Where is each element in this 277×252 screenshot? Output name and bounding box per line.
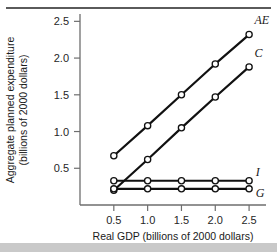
- x-tick-label: 1.5: [174, 214, 189, 226]
- line-chart-plot: 0.51.01.52.02.5 0.51.01.52.02.5 AECIG Re…: [0, 0, 277, 252]
- data-point-marker-I: [178, 178, 184, 184]
- y-tick-label: 1.0: [54, 126, 69, 138]
- series-label-C: C: [255, 46, 264, 60]
- data-point-marker-I: [111, 178, 117, 184]
- data-point-marker-G: [178, 186, 184, 192]
- y-tick-label: 2.5: [54, 15, 69, 27]
- data-point-marker-AE: [145, 123, 151, 129]
- data-point-marker-G: [111, 186, 117, 192]
- data-point-marker-AE: [212, 61, 218, 67]
- axis-spines: [80, 14, 266, 205]
- data-point-marker-C: [212, 94, 218, 100]
- y-axis-title-line-1: Aggregate planned expenditure: [4, 37, 16, 184]
- x-tick-label: 2.5: [241, 214, 256, 226]
- series-label-G: G: [256, 186, 265, 200]
- data-point-marker-C: [246, 64, 252, 70]
- data-point-marker-G: [246, 186, 252, 192]
- x-tick-label: 1.0: [140, 214, 155, 226]
- chart-figure: 0.51.01.52.02.5 0.51.01.52.02.5 AECIG Re…: [0, 0, 277, 252]
- data-point-marker-I: [145, 178, 151, 184]
- x-axis-ticks: [114, 205, 249, 211]
- data-point-marker-AE: [178, 92, 184, 98]
- y-tick-label: 0.5: [54, 162, 69, 174]
- data-point-marker-C: [145, 156, 151, 162]
- x-tick-label: 0.5: [106, 214, 121, 226]
- data-series-group: [111, 31, 252, 193]
- y-axis-title-line-2: (billions of 2000 dollars): [17, 55, 29, 166]
- y-tick-label: 2.0: [54, 52, 69, 64]
- series-label-I: I: [255, 165, 261, 179]
- x-axis-title: Real GDP (billions of 2000 dollars): [93, 230, 254, 242]
- data-point-marker-C: [178, 125, 184, 131]
- data-point-marker-AE: [246, 31, 252, 37]
- data-point-marker-AE: [111, 153, 117, 159]
- y-tick-label: 1.5: [54, 89, 69, 101]
- data-point-marker-I: [246, 178, 252, 184]
- x-tick-label: 2.0: [208, 214, 223, 226]
- x-axis-tick-labels: 0.51.01.52.02.5: [106, 214, 257, 226]
- data-point-marker-I: [212, 178, 218, 184]
- bottom-divider-bar: [0, 243, 277, 252]
- data-point-marker-G: [212, 186, 218, 192]
- y-axis-ticks: [74, 21, 80, 168]
- series-end-labels: AECIG: [254, 13, 270, 200]
- series-label-AE: AE: [254, 13, 270, 27]
- y-axis-tick-labels: 0.51.01.52.02.5: [54, 15, 69, 174]
- data-point-marker-G: [145, 186, 151, 192]
